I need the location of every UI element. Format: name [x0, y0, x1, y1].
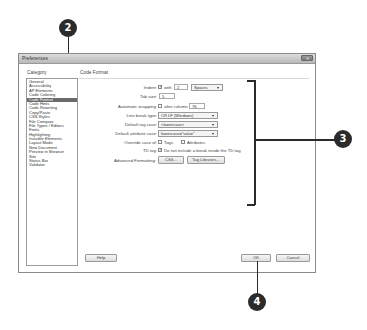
callout-3: 3	[334, 130, 352, 148]
tag-case-select[interactable]: <lowercase>	[158, 121, 218, 128]
override-attributes-checkbox[interactable]	[181, 140, 185, 144]
callout-3-bracket-side	[254, 80, 256, 205]
close-button[interactable]: ✕	[301, 55, 313, 61]
wrapping-checkbox[interactable]	[158, 104, 162, 108]
attr-case-label: Default attribute case:	[69, 131, 157, 136]
tag-libraries-button[interactable]: Tag Libraries...	[187, 156, 225, 164]
help-button[interactable]: Help	[85, 254, 117, 262]
close-icon: ✕	[306, 56, 309, 61]
td-tag-label: TD tag:	[99, 148, 157, 153]
tag-case-label: Default tag case:	[79, 122, 157, 127]
tab-size-input[interactable]: 5	[159, 93, 175, 99]
override-tags-label: Tags	[164, 140, 173, 145]
title-bar: Preferences ✕	[19, 54, 315, 64]
dialog-title: Preferences	[22, 56, 48, 61]
line-break-select[interactable]: CR LF (Windows)	[158, 112, 218, 119]
preferences-dialog: Preferences ✕ Category General Accessibi…	[18, 53, 316, 273]
callout-4-line	[257, 261, 259, 294]
category-label: Category	[27, 70, 46, 75]
indent-size-input[interactable]: 2	[174, 84, 188, 90]
wrapping-column-input[interactable]: 76	[189, 103, 205, 109]
indent-unit-select[interactable]: Spaces	[191, 84, 223, 91]
section-divider	[79, 78, 309, 79]
callout-3-bracket-bottom	[247, 204, 255, 206]
indent-with-label: with	[164, 85, 172, 90]
category-item-validator[interactable]: Validator	[27, 163, 77, 167]
line-break-label: Line break type:	[79, 113, 157, 118]
css-button[interactable]: CSS...	[158, 156, 184, 164]
chevron-down-icon	[212, 133, 214, 135]
category-list[interactable]: General Accessibility AP Elements Code C…	[26, 78, 78, 266]
section-title: Code Format	[80, 70, 108, 75]
callout-4: 4	[248, 293, 266, 311]
override-label: Override case of:	[79, 140, 157, 145]
chevron-down-icon	[217, 87, 219, 89]
cancel-button[interactable]: Cancel	[276, 254, 310, 262]
override-attributes-label: Attributes	[187, 140, 205, 145]
wrapping-label: Automatic wrapping:	[79, 104, 157, 109]
override-tags-checkbox[interactable]	[158, 140, 162, 144]
wrapping-after-label: after column	[164, 104, 188, 109]
td-tag-text: Do not include a break inside the TD tag	[164, 148, 241, 153]
indent-label: Indent:	[99, 85, 157, 90]
attr-case-select[interactable]: lowercase="value"	[158, 130, 218, 137]
tab-size-label: Tab size:	[99, 94, 157, 99]
chevron-down-icon	[212, 124, 214, 126]
callout-3-line	[254, 139, 336, 141]
advanced-label: Advanced Formatting:	[74, 158, 156, 163]
td-tag-checkbox[interactable]: ✓	[158, 148, 162, 152]
chevron-down-icon	[212, 115, 214, 117]
indent-checkbox[interactable]: ✓	[158, 85, 162, 89]
callout-2: 2	[59, 19, 77, 37]
